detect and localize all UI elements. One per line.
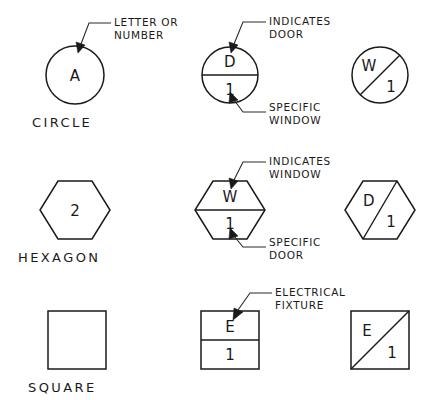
callout-line-2: FIXTURE (275, 299, 324, 311)
hexagon-bottom-glyph: 1 (386, 213, 396, 231)
square-shape-label: SQUARE (28, 380, 97, 395)
callout-indicates-window: INDICATES WINDOW (229, 155, 331, 189)
callout-line-1: INDICATES (269, 15, 331, 27)
callout-electrical-fixture: ELECTRICAL FIXTURE (233, 286, 346, 320)
symbol-reference-sheet: A CIRCLE LETTER OR NUMBER D 1 INDI (0, 0, 426, 400)
diagonal-divider (351, 311, 409, 369)
hexagon-plain-glyph: 2 (70, 202, 80, 220)
square-outline (48, 311, 106, 369)
square-row: SQUARE E 1 ELECTRICAL FIXTURE E 1 (28, 286, 409, 395)
leader-line (234, 236, 266, 247)
circle-shape-label: CIRCLE (32, 115, 92, 130)
callout-specific-door: SPECIFIC DOOR (229, 228, 321, 261)
square-plain-symbol (48, 311, 106, 369)
square-bottom-glyph: 1 (387, 344, 397, 362)
leader-line (234, 162, 266, 180)
square-top-glyph: E (362, 322, 372, 340)
circle-top-glyph: W (361, 57, 376, 75)
square-top-glyph: E (225, 318, 235, 336)
square-variant-symbol: E 1 (351, 311, 409, 369)
leader-line (81, 23, 111, 44)
circle-row: A CIRCLE LETTER OR NUMBER D 1 INDI (32, 15, 408, 130)
callout-letter-or-number: LETTER OR NUMBER (76, 16, 178, 53)
leader-line (238, 293, 272, 310)
callout-indicates-door: INDICATES DOOR (229, 15, 331, 53)
callout-line-1: SPECIFIC (269, 101, 321, 113)
arrow-head-icon (233, 308, 243, 320)
circle-bottom-glyph: 1 (386, 78, 396, 96)
circle-plain-glyph: A (70, 67, 81, 85)
hexagon-top-glyph: D (363, 192, 375, 210)
hexagon-row: 2 HEXAGON W 1 INDICATES WINDOW SPE (18, 155, 415, 265)
hexagon-shape-label: HEXAGON (18, 250, 100, 265)
square-bottom-glyph: 1 (225, 346, 235, 364)
callout-line-2: DOOR (269, 28, 304, 40)
square-annotated-symbol: E 1 (201, 311, 259, 369)
hexagon-plain-symbol: 2 (40, 181, 110, 239)
circle-plain-symbol: A (46, 46, 104, 104)
callout-line-2: NUMBER (114, 29, 164, 41)
callout-line-1: SPECIFIC (269, 236, 321, 248)
callout-line-2: WINDOW (269, 168, 321, 180)
hexagon-variant-symbol: D 1 (345, 181, 415, 239)
callout-line-2: WINDOW (269, 114, 321, 126)
circle-top-glyph: D (224, 53, 236, 71)
callout-line-1: LETTER OR (114, 16, 178, 28)
callout-specific-window: SPECIFIC WINDOW (229, 92, 321, 126)
circle-variant-symbol: W 1 (352, 47, 408, 103)
callout-line-2: DOOR (269, 249, 304, 261)
callout-line-1: INDICATES (269, 155, 331, 167)
hexagon-top-glyph: W (222, 188, 237, 206)
leader-line (234, 22, 266, 44)
callout-line-1: ELECTRICAL (275, 286, 346, 298)
symbols-canvas: A CIRCLE LETTER OR NUMBER D 1 INDI (0, 0, 426, 400)
